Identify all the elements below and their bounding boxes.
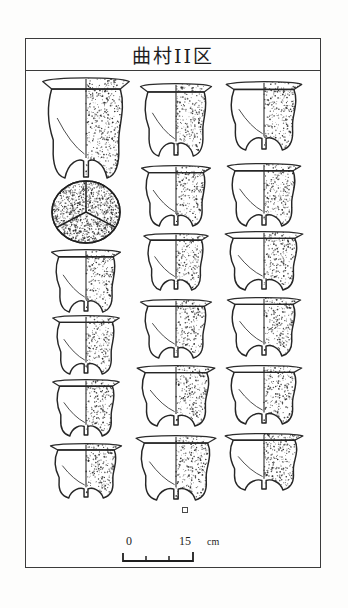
- vessel-drawing: [223, 359, 305, 431]
- specimen-c1r1: [40, 71, 132, 185]
- vessel-drawing: [49, 373, 123, 443]
- specimen-grid: [26, 71, 320, 526]
- vessel-drawing: [134, 359, 218, 433]
- vessel-drawing: [138, 159, 214, 233]
- vessel-drawing: [40, 71, 132, 185]
- vessel-drawing: [223, 75, 305, 157]
- specimen-c1r3: [40, 243, 132, 319]
- vessel-drawing-plan: [46, 175, 126, 249]
- vessel-drawing: [224, 157, 304, 233]
- vessel-drawing: [137, 293, 215, 365]
- scale-unit-label: cm: [207, 536, 219, 547]
- vessel-drawing: [222, 225, 306, 297]
- specimen-c2r5: [130, 359, 222, 433]
- specimen-c2r3: [130, 227, 222, 297]
- specimen-c2r4: [130, 293, 222, 365]
- plate-frame: 曲村II区 0 15 cm: [25, 38, 321, 568]
- vessel-drawing: [133, 429, 219, 507]
- vessel-drawing: [49, 309, 123, 381]
- specimen-c3r3: [218, 225, 310, 297]
- scale-bar-labels: 0 15 cm: [121, 534, 251, 549]
- page-title: 曲村II区: [132, 41, 214, 68]
- vessel-drawing: [47, 437, 125, 505]
- specimen-c1r4: [40, 309, 132, 381]
- specimen-c3r2: [218, 157, 310, 233]
- specimen-c3r1: [218, 75, 310, 157]
- specimen-c1r5: [40, 373, 132, 443]
- specimen-c2r2: [130, 159, 222, 233]
- specimen-c3r4: [218, 291, 310, 363]
- scale-max-label: 15: [179, 534, 191, 549]
- vessel-drawing: [222, 427, 306, 497]
- vessel-drawing: [137, 77, 215, 163]
- plate-title-band: 曲村II区: [26, 39, 320, 71]
- specimen-c3r6: [218, 427, 310, 497]
- vessel-drawing: [224, 291, 304, 363]
- vessel-drawing: [48, 243, 124, 319]
- vessel-drawing: [140, 227, 212, 297]
- specimen-c1r2: [40, 175, 132, 249]
- specimen-c3r5: [218, 359, 310, 431]
- scale-bar-rule: [121, 551, 201, 563]
- datum-mark: [182, 507, 188, 513]
- scale-bar: 0 15 cm: [121, 534, 251, 566]
- scale-zero-label: 0: [126, 534, 132, 549]
- specimen-c1r6: [40, 437, 132, 505]
- specimen-c2r6: [130, 429, 222, 507]
- specimen-c2r1: [130, 77, 222, 163]
